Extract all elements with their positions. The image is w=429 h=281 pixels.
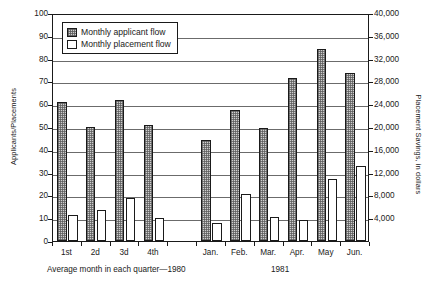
bar-placement-flow bbox=[155, 218, 165, 241]
y-axis-right-tick-label: 8,000 bbox=[374, 192, 420, 200]
y-axis-right-tick-mark bbox=[369, 60, 373, 61]
y-axis-left-tick-mark bbox=[48, 151, 52, 152]
y-axis-left-tick-label: 60 bbox=[8, 101, 48, 109]
y-axis-left-tick-mark bbox=[48, 196, 52, 197]
x-axis-tick-mark bbox=[81, 242, 82, 246]
bar-placement-flow bbox=[212, 223, 222, 241]
bar-applicant-flow bbox=[288, 78, 298, 241]
y-axis-left-tick-label: 50 bbox=[8, 124, 48, 132]
x-axis-tick-mark bbox=[52, 242, 53, 246]
y-axis-left-tick-mark bbox=[48, 82, 52, 83]
y-axis-right-tick-label: 36,000 bbox=[374, 33, 420, 41]
x-axis-tick-mark bbox=[196, 242, 197, 246]
y-axis-right-tick-label: 4,000 bbox=[374, 215, 420, 223]
x-axis-tick-label: Jun. bbox=[333, 248, 377, 257]
bar-placement-flow bbox=[299, 220, 309, 241]
x-axis-tick-mark bbox=[369, 242, 370, 246]
y-axis-left-tick-mark bbox=[48, 37, 52, 38]
x-axis-tick-mark bbox=[110, 242, 111, 246]
legend-label-applicant: Monthly applicant flow bbox=[81, 27, 166, 37]
y-axis-left-tick-label: 70 bbox=[8, 78, 48, 86]
bar-placement-flow bbox=[126, 198, 136, 241]
legend-item-placement: Monthly placement flow bbox=[67, 38, 171, 50]
y-axis-left-tick-label: 20 bbox=[8, 192, 48, 200]
bar-applicant-flow bbox=[86, 127, 96, 241]
caption-1980: Average month in each quarter—1980 bbox=[47, 265, 186, 275]
y-axis-left-tick-label: 0 bbox=[8, 238, 48, 246]
x-axis-tick-mark bbox=[340, 242, 341, 246]
y-axis-right-tick-mark bbox=[369, 14, 373, 15]
bar-chart-figure: Applicants/Placements Placement Savings,… bbox=[0, 0, 429, 281]
y-axis-right-tick-mark bbox=[369, 151, 373, 152]
y-axis-right-tick-mark bbox=[369, 105, 373, 106]
y-axis-right-tick-mark bbox=[369, 82, 373, 83]
y-axis-right-tick-label: 12,000 bbox=[374, 170, 420, 178]
y-axis-left-tick-label: 80 bbox=[8, 56, 48, 64]
legend-swatch-applicant-icon bbox=[67, 28, 77, 37]
y-axis-left-tick-label: 10 bbox=[8, 215, 48, 223]
chart-legend: Monthly applicant flow Monthly placement… bbox=[62, 22, 178, 54]
y-axis-right-tick-label: 32,000 bbox=[374, 56, 420, 64]
y-axis-right-tick-mark bbox=[369, 37, 373, 38]
y-axis-right-tick-mark bbox=[369, 174, 373, 175]
bar-applicant-flow bbox=[144, 125, 154, 241]
bar-applicant-flow bbox=[115, 100, 125, 241]
legend-item-applicant: Monthly applicant flow bbox=[67, 26, 171, 38]
caption-1981: 1981 bbox=[271, 265, 289, 275]
bar-applicant-flow bbox=[201, 140, 211, 241]
y-axis-left-tick-mark bbox=[48, 128, 52, 129]
y-axis-left-tick-label: 100 bbox=[8, 10, 48, 18]
x-axis-tick-mark bbox=[283, 242, 284, 246]
bar-placement-flow bbox=[328, 179, 338, 241]
y-axis-left-tick-label: 90 bbox=[8, 33, 48, 41]
y-axis-right-tick-label: 24,000 bbox=[374, 101, 420, 109]
y-axis-right-tick-label: 20,000 bbox=[374, 124, 420, 132]
legend-label-placement: Monthly placement flow bbox=[81, 39, 171, 49]
bar-applicant-flow bbox=[57, 102, 67, 241]
y-axis-left-tick-label: 30 bbox=[8, 170, 48, 178]
x-axis-tick-mark bbox=[311, 242, 312, 246]
bar-placement-flow bbox=[97, 210, 107, 241]
bar-placement-flow bbox=[270, 217, 280, 241]
bar-placement-flow bbox=[68, 215, 78, 241]
legend-swatch-placement-icon bbox=[67, 40, 77, 49]
y-axis-left-tick-mark bbox=[48, 219, 52, 220]
bar-applicant-flow bbox=[317, 49, 327, 241]
y-axis-left-tick-mark bbox=[48, 105, 52, 106]
y-axis-right-tick-label: 16,000 bbox=[374, 147, 420, 155]
x-axis-tick-label: 4th bbox=[131, 248, 175, 257]
x-axis-tick-mark bbox=[225, 242, 226, 246]
y-axis-left-tick-mark bbox=[48, 60, 52, 61]
x-axis-tick-mark bbox=[254, 242, 255, 246]
y-axis-right-tick-mark bbox=[369, 219, 373, 220]
bar-applicant-flow bbox=[230, 110, 240, 241]
bar-placement-flow bbox=[241, 194, 251, 241]
y-axis-left-tick-mark bbox=[48, 14, 52, 15]
bar-applicant-flow bbox=[345, 73, 355, 241]
y-axis-right-tick-mark bbox=[369, 196, 373, 197]
bar-applicant-flow bbox=[259, 128, 269, 241]
x-axis-tick-mark bbox=[138, 242, 139, 246]
y-axis-right-tick-mark bbox=[369, 128, 373, 129]
y-axis-left-tick-label: 40 bbox=[8, 147, 48, 155]
y-axis-right-tick-label: 40,000 bbox=[374, 10, 420, 18]
bar-placement-flow bbox=[356, 166, 366, 241]
y-axis-right-tick-label: 28,000 bbox=[374, 78, 420, 86]
x-axis-tick-mark bbox=[167, 242, 168, 246]
y-axis-left-tick-mark bbox=[48, 174, 52, 175]
